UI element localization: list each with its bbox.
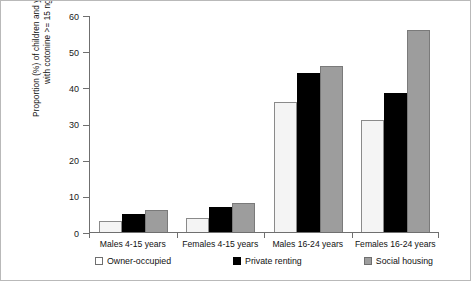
bar [186,218,209,232]
legend-item: Private renting [233,256,302,266]
plot-area: 0102030405060 [89,16,439,233]
bar-group [177,16,264,232]
x-axis-label: Males 16-24 years [264,239,352,249]
y-axis-tick-label: 20 [69,156,79,166]
y-axis-tick: 10 [83,197,89,198]
bar-group [352,16,439,232]
x-axis-labels: Males 4-15 yearsFemales 4-15 yearsMales … [89,239,439,249]
private-renting-swatch [233,257,241,265]
chart-legend: Owner-occupiedPrivate rentingSocial hous… [89,256,439,266]
bar [384,93,407,232]
owner-occupied-swatch [95,257,103,265]
x-axis-tick [177,233,178,238]
y-axis-tick: 30 [83,125,89,126]
legend-label: Social housing [376,256,433,266]
bar [320,66,343,232]
social-housing-swatch [364,257,372,265]
y-axis-tick-label: 10 [69,192,79,202]
y-axis-tick-label: 50 [69,48,79,58]
x-axis-tick [352,233,353,238]
legend-item: Owner-occupied [95,256,171,266]
x-axis-label: Females 4-15 years [177,239,265,249]
y-axis-tick: 20 [83,161,89,162]
x-axis-label: Females 16-24 years [352,239,440,249]
chart-figure: Proportion (%) of children and young adu… [0,0,471,281]
bar [361,120,384,232]
bar [274,102,297,232]
legend-label: Private renting [245,256,302,266]
legend-label: Owner-occupied [107,256,171,266]
bar [209,207,232,232]
y-axis-title: Proportion (%) of children and young adu… [25,0,59,141]
x-axis-label: Males 4-15 years [89,239,177,249]
y-axis-tick-label: 30 [69,120,79,130]
bar-group [90,16,177,232]
bar-group [265,16,352,232]
y-axis-tick-label: 0 [74,229,79,239]
y-axis-tick: 60 [83,16,89,17]
bar-groups [90,16,439,232]
y-axis-tick-label: 60 [69,12,79,22]
bar [297,73,320,232]
bar [407,30,430,232]
y-axis-title-line-1: Proportion (%) of children and young adu… [31,0,42,117]
y-axis-tick: 50 [83,52,89,53]
bar [145,210,168,232]
bar [122,214,145,232]
bar [99,221,122,232]
legend-item: Social housing [364,256,433,266]
x-axis-tick [438,233,439,238]
x-axis-ticks [89,233,439,238]
x-axis-tick [264,233,265,238]
x-axis-tick [89,233,90,238]
y-axis-tick: 40 [83,88,89,89]
y-axis-title-line-2: with cotonine >= 15 ng/ml [42,0,53,84]
y-axis-tick-label: 40 [69,84,79,94]
bar [232,203,255,232]
